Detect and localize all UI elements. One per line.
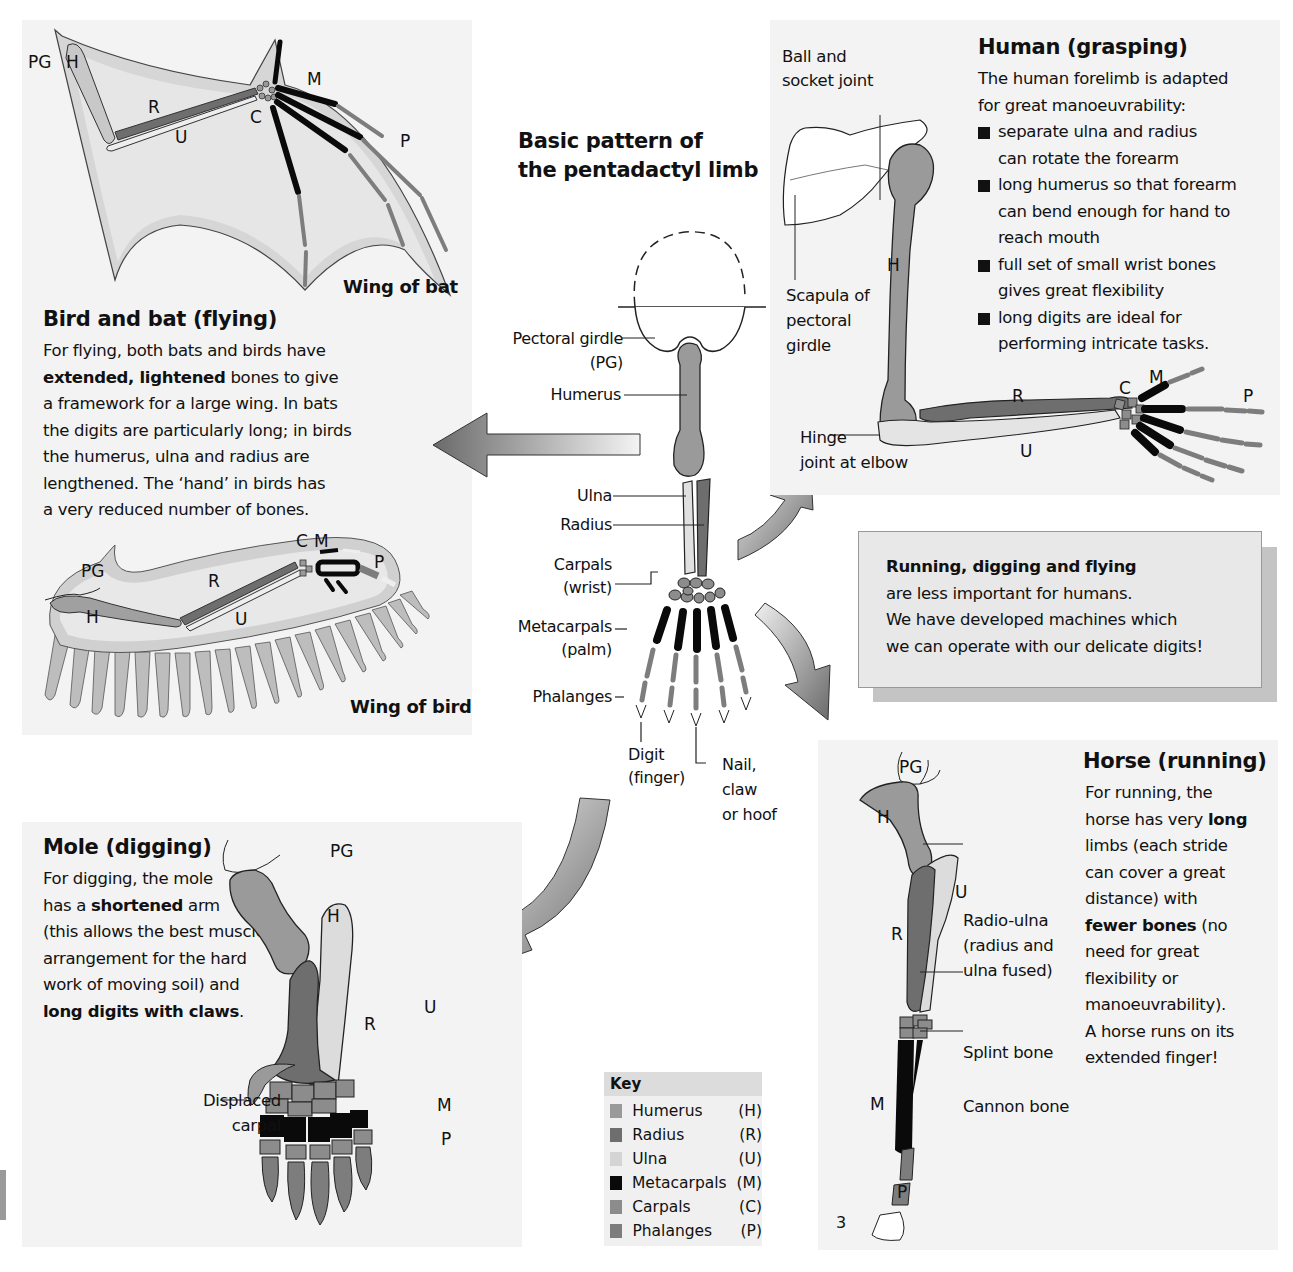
humerus-swatch [610, 1104, 622, 1118]
label-pectoral-girdle: Pectoral girdle [512, 329, 623, 349]
bat-label-m: M [307, 70, 322, 88]
horse-line: fewer bones (no [1085, 913, 1275, 940]
horse-line: distance) with [1085, 886, 1275, 913]
phalanges-swatch [610, 1224, 622, 1238]
mole-label-p: P [441, 1130, 451, 1148]
key-item-humerus: Humerus(H) [604, 1099, 762, 1123]
callout-line-2: We have developed machines which [886, 607, 1261, 634]
label-claw: claw [722, 780, 757, 800]
key-item-metacarpals: Metacarpals(M) [604, 1171, 762, 1195]
human-hinge-label: Hingejoint at elbow [800, 425, 908, 475]
bat-bird-heading: Bird and bat (flying) [43, 307, 277, 331]
horse-leg-illustration [820, 740, 1080, 1250]
horse-label-r: R [891, 925, 903, 943]
horse-line: limbs (each stride [1085, 833, 1275, 860]
center-title-line-2: the pentadactyl limb [518, 156, 758, 185]
horse-radio-ulna-label: Radio-ulna(radius andulna fused) [963, 908, 1053, 983]
bat-bird-line-2: extended, lightened bones to give [43, 365, 423, 392]
horse-line: flexibility or [1085, 966, 1275, 993]
bat-label-c: C [250, 108, 262, 126]
bat-bird-line-6: lengthened. The ‘hand’ in birds has [43, 471, 423, 498]
human-scapula-label: Scapula ofpectoralgirdle [786, 283, 869, 358]
mole-displaced-carpal-label: Displacedcarpal [203, 1088, 281, 1138]
label-hoof: or hoof [722, 805, 777, 825]
label-phalanges: Phalanges [532, 687, 612, 707]
bird-label-c: C [296, 532, 308, 550]
human-label-u: U [1020, 442, 1032, 460]
horse-cannon-bone-label: Cannon bone [963, 1097, 1069, 1117]
label-digit: Digit [628, 745, 664, 765]
human-ball-socket-label: Ball andsocket joint [782, 45, 873, 93]
bat-label-pg: PG [28, 53, 51, 71]
center-title-line-1: Basic pattern of [518, 127, 758, 156]
bat-bird-line-4: the digits are particularly long; in bir… [43, 418, 423, 445]
bird-label-u: U [235, 610, 247, 628]
horse-label-h: H [877, 808, 890, 826]
bat-bird-line-1: For flying, both bats and birds have [43, 338, 423, 365]
mole-label-m: M [437, 1096, 452, 1114]
bat-caption: Wing of bat [343, 276, 458, 297]
bird-label-h: H [86, 608, 99, 626]
page-edge-tab [0, 1170, 6, 1220]
bat-label-r: R [148, 98, 160, 116]
ulna-swatch [610, 1152, 622, 1166]
label-digit-sub: (finger) [628, 768, 685, 788]
bat-bird-description: For flying, both bats and birds have ext… [43, 338, 423, 524]
bird-label-m: M [314, 532, 329, 550]
bat-bird-line-3: a framework for a large wing. In bats [43, 391, 423, 418]
horse-line: A horse runs on its [1085, 1019, 1275, 1046]
mole-label-pg: PG [330, 842, 353, 860]
arrow-left-to-bat-bird [430, 410, 650, 490]
horse-label-pg: PG [899, 758, 922, 776]
mole-forelimb-illustration [180, 830, 480, 1250]
horse-label-p: P [897, 1183, 907, 1201]
bat-label-u: U [175, 128, 187, 146]
horse-label-u: U [955, 883, 967, 901]
horse-line: manoeuvrability). [1085, 992, 1275, 1019]
human-label-c: C [1119, 379, 1131, 397]
callout-line-1: are less important for humans. [886, 581, 1261, 608]
arrow-to-horse [750, 600, 840, 725]
callout-line-3: we can operate with our delicate digits! [886, 634, 1261, 661]
key-item-ulna: Ulna(U) [604, 1147, 762, 1171]
human-intro-1: The human forelimb is adapted [978, 66, 1278, 93]
human-label-m: M [1149, 368, 1164, 386]
horse-digit-number: 3 [836, 1213, 846, 1233]
human-label-r: R [1012, 387, 1024, 405]
key-item-carpals: Carpals(C) [604, 1195, 762, 1219]
bat-label-h: H [66, 53, 79, 71]
horse-line: need for great [1085, 939, 1275, 966]
carpals-swatch [610, 1200, 622, 1214]
center-title: Basic pattern of the pentadactyl limb [518, 127, 758, 185]
bird-label-r: R [208, 572, 220, 590]
mole-label-u: U [424, 998, 436, 1016]
horse-line: extended finger! [1085, 1045, 1275, 1072]
bird-caption: Wing of bird [350, 696, 472, 717]
human-heading: Human (grasping) [978, 35, 1188, 59]
horse-line: can cover a great [1085, 860, 1275, 887]
label-metacarpals-sub: (palm) [561, 640, 612, 660]
callout-box: Running, digging and flying are less imp… [858, 531, 1262, 688]
horse-line: horse has very long [1085, 807, 1275, 834]
label-metacarpals: Metacarpals [518, 617, 612, 637]
label-pectoral-girdle-abbr: (PG) [590, 353, 623, 373]
human-label-p: P [1243, 387, 1253, 405]
mole-label-r: R [364, 1015, 376, 1033]
label-carpals-sub: (wrist) [563, 578, 612, 598]
radius-swatch [610, 1128, 622, 1142]
horse-heading: Horse (running) [1083, 749, 1267, 773]
bat-label-p: P [400, 132, 410, 150]
key-title: Key [604, 1072, 762, 1096]
bird-label-pg: PG [81, 562, 104, 580]
horse-splint-bone-label: Splint bone [963, 1043, 1053, 1063]
key-item-radius: Radius(R) [604, 1123, 762, 1147]
label-humerus: Humerus [550, 385, 621, 405]
key-item-phalanges: Phalanges(P) [604, 1219, 762, 1243]
callout-heading: Running, digging and flying [886, 554, 1261, 581]
human-label-h: H [887, 256, 900, 274]
label-nail: Nail, [722, 755, 756, 775]
bird-label-p: P [374, 553, 384, 571]
mole-label-h: H [327, 907, 340, 925]
key-legend: Key Humerus(H) Radius(R) Ulna(U) Metacar… [604, 1072, 762, 1246]
horse-description: For running, the horse has very long lim… [1085, 780, 1275, 1072]
